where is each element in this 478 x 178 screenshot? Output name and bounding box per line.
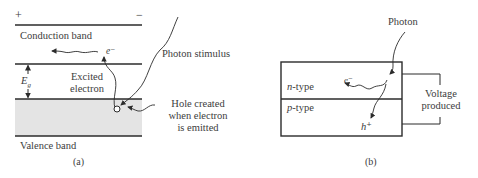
n-type-suffix: -type bbox=[292, 81, 314, 92]
conduction-band-label: Conduction band bbox=[20, 30, 92, 42]
hole-circle bbox=[114, 106, 120, 112]
excited-electron-line2: electron bbox=[64, 83, 110, 95]
excited-electron-line1: Excited bbox=[64, 71, 110, 83]
voltage-bracket-top bbox=[402, 74, 440, 85]
electron-symbol-a: e⁻ bbox=[106, 45, 115, 57]
caption-a: (a) bbox=[73, 156, 84, 168]
energy-gap-subscript: g bbox=[27, 81, 31, 89]
hole-label-line2: when electron bbox=[158, 110, 238, 122]
electron-motion-arrow bbox=[52, 51, 98, 53]
plus-sign: + bbox=[15, 9, 22, 21]
hole-path-arrow bbox=[371, 84, 386, 118]
photoelectric-diagram: + − Conduction band e⁻ Photon stimulus E… bbox=[0, 0, 478, 178]
photon-stimulus-arrow bbox=[121, 17, 178, 105]
n-type-label: n-type bbox=[287, 81, 314, 93]
photon-stimulus-label: Photon stimulus bbox=[162, 48, 230, 60]
p-type-label: p-type bbox=[287, 102, 314, 114]
minus-sign: − bbox=[136, 9, 143, 21]
hole-label-line1: Hole created bbox=[158, 98, 238, 110]
photon-label: Photon bbox=[388, 16, 418, 28]
voltage-produced-line2: produced bbox=[415, 100, 467, 112]
hole-symbol-b: h⁺ bbox=[361, 121, 372, 133]
caption-b: (b) bbox=[365, 156, 377, 168]
photon-arrow bbox=[390, 32, 405, 74]
valence-band-fill bbox=[15, 99, 142, 136]
valence-band-label: Valence band bbox=[20, 140, 76, 152]
electron-symbol-b: e⁻ bbox=[344, 74, 353, 86]
p-type-suffix: -type bbox=[292, 102, 314, 113]
hole-label-line3: is emitted bbox=[158, 122, 238, 134]
voltage-produced-line1: Voltage bbox=[415, 88, 467, 100]
energy-gap-label: Eg bbox=[21, 75, 31, 91]
voltage-bracket-bottom bbox=[402, 117, 440, 124]
